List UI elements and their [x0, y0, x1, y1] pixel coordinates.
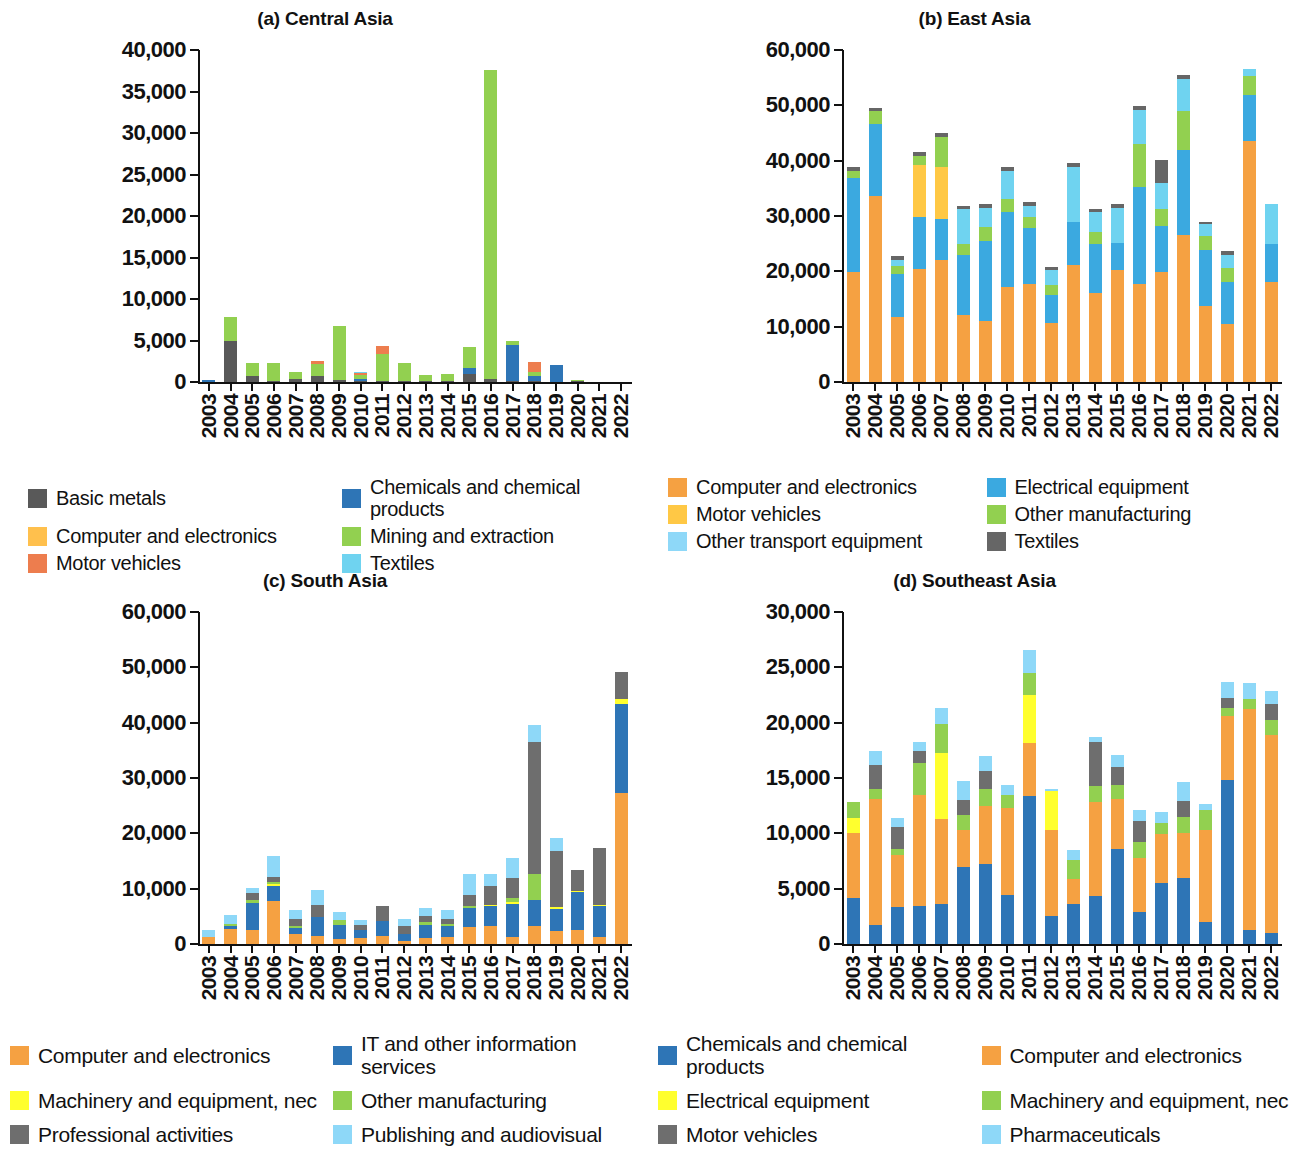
bar-stack[interactable]: [376, 346, 389, 382]
bar-stack[interactable]: [224, 915, 237, 944]
bar-stack[interactable]: [847, 802, 860, 944]
bar-stack[interactable]: [1045, 267, 1058, 382]
bar-stack[interactable]: [593, 848, 606, 944]
legend-item[interactable]: Chemicals and chemical products: [342, 476, 650, 520]
legend-item[interactable]: Pharmaceuticals: [982, 1123, 1299, 1146]
bar-stack[interactable]: [528, 362, 541, 382]
bar-stack[interactable]: [1111, 204, 1124, 382]
bar-stack[interactable]: [246, 888, 259, 944]
bar-stack[interactable]: [354, 372, 367, 382]
legend-item[interactable]: Motor vehicles: [668, 503, 981, 525]
bar-stack[interactable]: [1067, 163, 1080, 382]
bar-stack[interactable]: [1133, 106, 1146, 382]
bar-stack[interactable]: [202, 930, 215, 944]
legend-item[interactable]: Mining and extraction: [342, 525, 650, 547]
legend-item[interactable]: Electrical equipment: [658, 1089, 976, 1112]
bar-stack[interactable]: [1199, 222, 1212, 382]
bar-stack[interactable]: [550, 838, 563, 944]
bar-stack[interactable]: [441, 910, 454, 944]
bar-stack[interactable]: [869, 751, 882, 944]
bar-stack[interactable]: [441, 374, 454, 382]
legend-item[interactable]: Basic metals: [28, 476, 336, 520]
bar-stack[interactable]: [419, 908, 432, 944]
bar-stack[interactable]: [1155, 812, 1168, 944]
bar-stack[interactable]: [913, 742, 926, 944]
bar-stack[interactable]: [1265, 204, 1278, 382]
legend-item[interactable]: Computer and electronics: [982, 1032, 1299, 1078]
bar-stack[interactable]: [615, 672, 628, 944]
bar-stack[interactable]: [913, 152, 926, 382]
bar-stack[interactable]: [311, 890, 324, 944]
bar-stack[interactable]: [419, 375, 432, 382]
bar-stack[interactable]: [1089, 737, 1102, 944]
legend-item[interactable]: Publishing and audiovisual: [333, 1123, 650, 1146]
bar-stack[interactable]: [289, 910, 302, 944]
bar-stack[interactable]: [1111, 755, 1124, 944]
bar-stack[interactable]: [1023, 202, 1036, 382]
bar-stack[interactable]: [484, 70, 497, 382]
bar-stack[interactable]: [506, 858, 519, 944]
bar-stack[interactable]: [1265, 691, 1278, 944]
bar-stack[interactable]: [354, 920, 367, 944]
bar-stack[interactable]: [267, 363, 280, 382]
bar-stack[interactable]: [289, 372, 302, 382]
bar-stack[interactable]: [267, 856, 280, 944]
bar-stack[interactable]: [1199, 804, 1212, 945]
bar-stack[interactable]: [311, 361, 324, 382]
bar-stack[interactable]: [398, 919, 411, 944]
bar-stack[interactable]: [1221, 682, 1234, 944]
bar-stack[interactable]: [1243, 69, 1256, 382]
bar-stack[interactable]: [528, 725, 541, 944]
bar-stack[interactable]: [979, 204, 992, 382]
bar-stack[interactable]: [571, 380, 584, 382]
bar-stack[interactable]: [333, 326, 346, 382]
bar-stack[interactable]: [891, 818, 904, 944]
bar-stack[interactable]: [550, 365, 563, 382]
bar-stack[interactable]: [1177, 75, 1190, 382]
bar-stack[interactable]: [376, 906, 389, 944]
legend-item[interactable]: Computer and electronics: [28, 525, 336, 547]
legend-item[interactable]: Machinery and equipment, nec: [982, 1089, 1299, 1112]
bar-stack[interactable]: [1133, 810, 1146, 944]
legend-item[interactable]: Machinery and equipment, nec: [10, 1089, 327, 1112]
bar-stack[interactable]: [869, 108, 882, 382]
bar-stack[interactable]: [979, 756, 992, 944]
legend-item[interactable]: Professional activities: [10, 1123, 327, 1146]
bar-stack[interactable]: [224, 317, 237, 382]
bar-stack[interactable]: [957, 781, 970, 944]
bar-stack[interactable]: [1221, 251, 1234, 382]
legend-item[interactable]: Other manufacturing: [333, 1089, 650, 1112]
bar-stack[interactable]: [1045, 789, 1058, 944]
bar-stack[interactable]: [1067, 850, 1080, 944]
bar-stack[interactable]: [571, 870, 584, 944]
bar-stack[interactable]: [484, 874, 497, 944]
bar-stack[interactable]: [1023, 650, 1036, 944]
bar-stack[interactable]: [1001, 785, 1014, 944]
bar-stack[interactable]: [847, 167, 860, 382]
bar-stack[interactable]: [398, 363, 411, 382]
bar-stack[interactable]: [202, 380, 215, 382]
bar-stack[interactable]: [246, 363, 259, 382]
legend-item[interactable]: IT and other information services: [333, 1032, 650, 1078]
legend-item[interactable]: Electrical equipment: [987, 476, 1299, 498]
bar-stack[interactable]: [1089, 209, 1102, 382]
legend-item[interactable]: Textiles: [987, 530, 1299, 552]
bar-stack[interactable]: [506, 341, 519, 382]
bar-stack[interactable]: [891, 256, 904, 382]
bar-stack[interactable]: [935, 708, 948, 944]
bar-stack[interactable]: [463, 874, 476, 944]
bar-stack[interactable]: [1177, 782, 1190, 944]
bar-stack[interactable]: [935, 133, 948, 382]
legend-item[interactable]: Computer and electronics: [10, 1032, 327, 1078]
bar-stack[interactable]: [1155, 160, 1168, 382]
bar-stack[interactable]: [463, 347, 476, 382]
bar-stack[interactable]: [1243, 683, 1256, 944]
bar-stack[interactable]: [1001, 167, 1014, 382]
legend-item[interactable]: Other transport equipment: [668, 530, 981, 552]
bar-stack[interactable]: [957, 206, 970, 382]
legend-item[interactable]: Chemicals and chemical products: [658, 1032, 976, 1078]
legend-item[interactable]: Other manufacturing: [987, 503, 1299, 525]
bar-stack[interactable]: [333, 912, 346, 944]
legend-item[interactable]: Computer and electronics: [668, 476, 981, 498]
legend-item[interactable]: Motor vehicles: [658, 1123, 976, 1146]
